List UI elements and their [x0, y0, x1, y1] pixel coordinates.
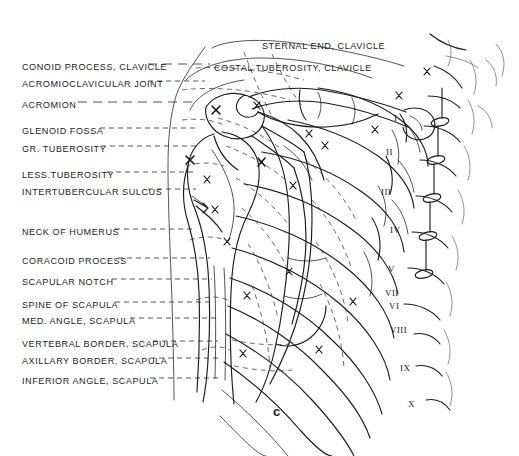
- label-axillary-border-scapula: AXILLARY BORDER, SCAPULA: [22, 357, 167, 367]
- label-med-angle-scapula: MED. ANGLE, SCAPULA: [22, 317, 136, 327]
- label-vertebral-border-scapula: VERTEBRAL BORDER, SCAPULA: [22, 340, 178, 350]
- rib-number-vii: VII: [385, 288, 399, 298]
- label-spine-of-scapula: SPINE OF SCAPULA: [22, 301, 118, 311]
- label-neck-of-humerus: NECK OF HUMERUS: [22, 228, 119, 238]
- rib-number-ii: II: [386, 147, 393, 157]
- x-marks: [186, 68, 430, 357]
- label-conoid-process-clavicle: CONOID PROCESS, CLAVICLE: [22, 63, 167, 73]
- label-glenoid-fossa: GLENOID FOSSA: [22, 127, 103, 137]
- figure-page: .s { fill:none; stroke:#1b1b1b; stroke-w…: [0, 0, 519, 456]
- humerus: [184, 132, 260, 404]
- figure-caption: c: [273, 404, 280, 419]
- label-acromion: ACROMION: [22, 101, 76, 111]
- rib-number-v: V: [388, 264, 395, 274]
- scapula: [256, 112, 326, 402]
- label-scapular-notch: SCAPULAR NOTCH: [22, 278, 114, 288]
- rib-number-vi: VI: [389, 301, 399, 311]
- label-less-tuberosity: LESS.TUBEROSITY: [22, 171, 114, 181]
- label-intertubercular-sulcus: INTERTUBERCULAR SULCUS: [22, 188, 162, 198]
- ribs: [220, 88, 428, 456]
- label-costal-tuberosity-clavicle: COSTAL TUBEROSITY, CLAVICLE: [214, 64, 372, 74]
- rib-number-i: I: [394, 113, 397, 123]
- rib-number-iv: IV: [390, 225, 400, 235]
- vertebral-column: [404, 34, 504, 410]
- rib-number-x: X: [408, 399, 415, 409]
- label-sternal-end-clavicle: STERNAL END, CLAVICLE: [262, 42, 385, 52]
- label-coracoid-process: CORACOID PROCESS: [22, 257, 127, 267]
- rib-number-ix: IX: [400, 363, 410, 373]
- rib-number-viii: VIII: [390, 325, 407, 335]
- label-acromioclavicular-joint: ACROMIOCLAVICULAR JOINT: [22, 80, 163, 90]
- rib-number-iii: III: [381, 187, 391, 197]
- sternum-and-costal-cartilage: [364, 114, 407, 296]
- dashed-construction-lines: [182, 52, 356, 371]
- label-gr-tuberosity: GR. TUBEROSITY: [22, 145, 106, 155]
- label-inferior-angle-scapula: INFERIOR ANGLE, SCAPULA: [22, 377, 158, 387]
- leader-lines: [78, 64, 222, 378]
